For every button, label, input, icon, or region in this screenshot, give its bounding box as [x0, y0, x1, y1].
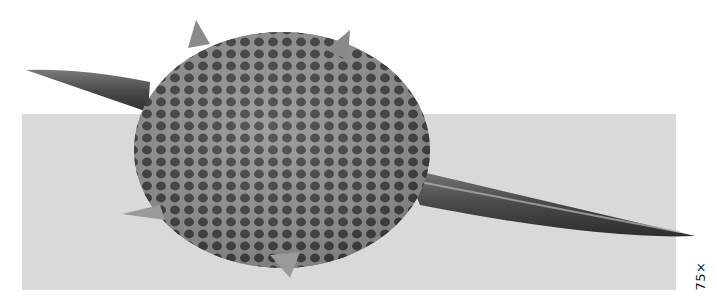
radiolarian-illustration: [0, 0, 717, 307]
left-spine: [26, 70, 150, 112]
micrograph-scene: 75×: [0, 0, 717, 307]
top-left-spine: [188, 20, 210, 48]
magnification-label: 75×: [693, 262, 708, 291]
